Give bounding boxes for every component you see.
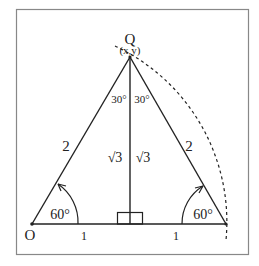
- height-left-label: √3: [108, 150, 123, 165]
- apex-left-angle-label: 30°: [111, 93, 126, 105]
- left-base-length-label: 1: [81, 229, 87, 243]
- origin-label: O: [25, 227, 36, 243]
- apex-right-angle-label: 30°: [134, 93, 149, 105]
- equilateral-triangle-diagram: Q (x,y) O 2 2 1 1 √3 √3 30° 30° 60° 60°: [0, 0, 259, 266]
- base-right-angle-label: 60°: [193, 207, 213, 222]
- height-right-label: √3: [136, 150, 151, 165]
- right-vertex-point: [224, 222, 227, 225]
- apex-coords-label: (x,y): [119, 44, 140, 57]
- base-left-angle-label: 60°: [50, 207, 70, 222]
- left-side-line: [32, 57, 130, 224]
- left-side-length-label: 2: [62, 138, 70, 154]
- right-side-line: [130, 57, 226, 224]
- right-base-length-label: 1: [173, 229, 179, 243]
- origin-point: [30, 222, 34, 226]
- right-side-length-label: 2: [185, 138, 193, 154]
